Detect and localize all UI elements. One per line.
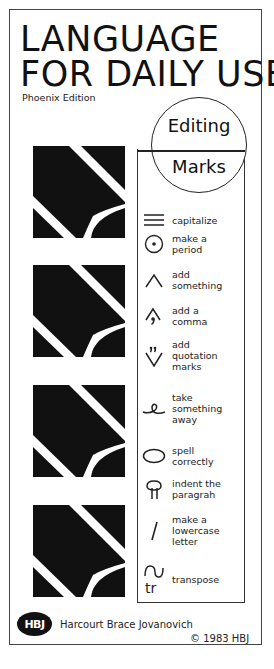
- badge-divider: [137, 150, 245, 152]
- mark-period: make a period: [140, 230, 246, 258]
- paragraph-icon: [140, 475, 168, 503]
- slash-icon: [140, 517, 168, 545]
- svg-text:tr: tr: [145, 580, 156, 596]
- mark-add-comma: add a comma: [140, 302, 246, 330]
- title-line-2: FOR DAILY USE: [20, 57, 274, 92]
- editing-marks-badge: [151, 97, 247, 193]
- mark-lowercase: make a lowercase letter: [140, 514, 246, 547]
- caret-icon: [140, 266, 168, 294]
- caret-comma-icon: [140, 302, 168, 330]
- badge-word-editing: Editing: [151, 115, 247, 136]
- mark-spell-correctly: spell correctly: [140, 442, 246, 470]
- badge-word-marks: Marks: [151, 156, 247, 177]
- oval-icon: [140, 442, 168, 470]
- publisher-name: Harcourt Brace Jovanovich: [60, 619, 193, 630]
- edition-label: Phoenix Edition: [22, 92, 96, 103]
- transpose-icon: tr: [140, 562, 168, 596]
- publisher: HBJ Harcourt Brace Jovanovich: [17, 612, 193, 636]
- mark-take-something-away: take something away: [140, 392, 246, 425]
- mark-transpose: tr transpose: [140, 562, 246, 596]
- circled-dot-icon: [140, 230, 168, 258]
- book-title: LANGUAGE FOR DAILY USE: [20, 22, 274, 92]
- hbj-logo: HBJ: [17, 612, 52, 636]
- title-line-1: LANGUAGE: [20, 22, 274, 57]
- mark-indent-paragraph: indent the paragrah: [140, 475, 246, 503]
- delete-loop-icon: [140, 395, 168, 423]
- mark-add-quotation-marks: add quotation marks: [140, 339, 246, 372]
- mark-add-something: add something: [140, 266, 246, 294]
- copyright: © 1983 HBJ: [190, 633, 249, 644]
- inverted-caret-quotes-icon: [140, 342, 168, 370]
